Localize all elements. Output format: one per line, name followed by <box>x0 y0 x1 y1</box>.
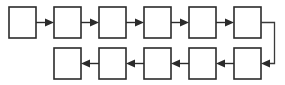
arrow-left-icon-1 <box>216 60 234 68</box>
process-box-10[interactable] <box>99 48 126 79</box>
arrow-left-icon-4 <box>81 60 99 68</box>
arrow-right-icon-5 <box>216 19 234 27</box>
flowchart-canvas <box>0 0 285 85</box>
process-box-11[interactable] <box>54 48 81 79</box>
wrap-connector-icon <box>261 23 275 68</box>
process-box-4[interactable] <box>144 7 171 38</box>
process-box-7[interactable] <box>234 48 261 79</box>
arrow-right-icon-4 <box>171 19 189 27</box>
process-box-2[interactable] <box>54 7 81 38</box>
process-box-1[interactable] <box>9 7 36 38</box>
arrow-right-icon-2 <box>81 19 99 27</box>
flowchart-diagram <box>0 0 285 85</box>
process-box-8[interactable] <box>189 48 216 79</box>
process-box-5[interactable] <box>189 7 216 38</box>
arrow-left-icon-3 <box>126 60 144 68</box>
process-box-6[interactable] <box>234 7 261 38</box>
arrow-left-icon-2 <box>171 60 189 68</box>
arrow-right-icon-1 <box>36 19 54 27</box>
process-box-9[interactable] <box>144 48 171 79</box>
process-box-3[interactable] <box>99 7 126 38</box>
arrow-right-icon-3 <box>126 19 144 27</box>
